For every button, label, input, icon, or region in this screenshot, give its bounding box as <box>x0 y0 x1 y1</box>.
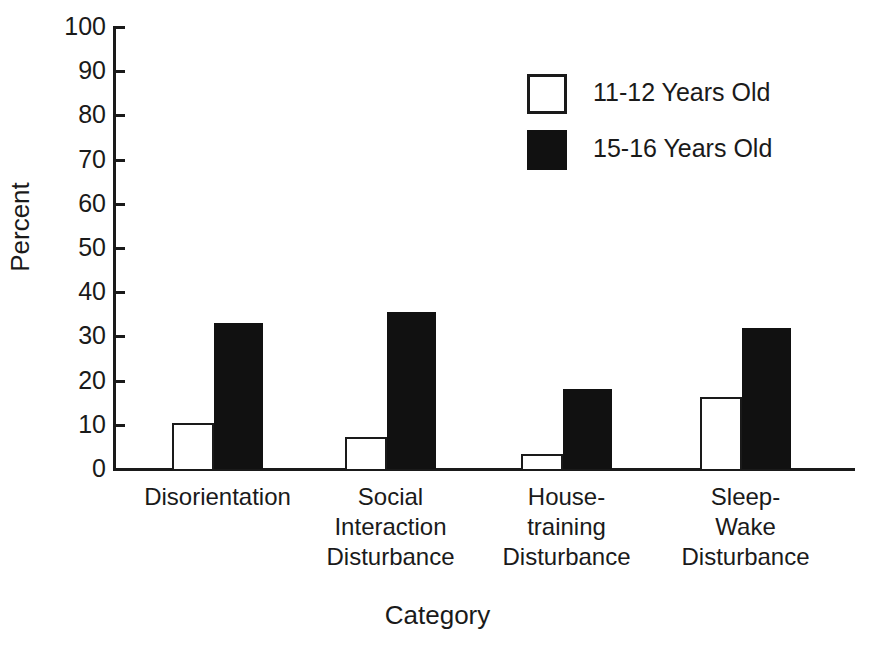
bar <box>214 323 263 469</box>
y-axis-tick-label: 30 <box>42 323 106 348</box>
bar <box>563 389 612 469</box>
y-axis-tick <box>113 70 125 73</box>
bar <box>345 437 387 469</box>
y-axis-tick-label: 20 <box>42 368 106 393</box>
bar <box>521 454 563 469</box>
bar <box>700 397 742 469</box>
y-axis-tick <box>113 335 125 338</box>
y-axis-tick-label-wrap: 20 <box>28 368 106 393</box>
y-axis-tick <box>113 380 125 383</box>
filled-square-swatch-icon <box>527 130 567 170</box>
y-axis-tick-label-wrap: 30 <box>28 323 106 348</box>
legend-entry: 15-16 Years Old <box>527 128 827 184</box>
y-axis-tick-label-wrap: 80 <box>28 102 106 127</box>
y-axis-tick-label: 0 <box>42 456 106 481</box>
x-axis-title: Category <box>0 600 875 630</box>
x-axis-category-label: Sleep- Wake Disturbance <box>636 482 856 572</box>
y-axis-tick-label-wrap: 0 <box>28 456 106 481</box>
y-axis-tick-label-wrap: 50 <box>28 235 106 260</box>
y-axis-tick-label-wrap: 40 <box>28 279 106 304</box>
y-axis-tick <box>113 291 125 294</box>
bar <box>742 328 791 469</box>
y-axis-title: Percent <box>5 147 35 307</box>
legend-entry: 11-12 Years Old <box>527 72 827 128</box>
y-axis-tick-label: 60 <box>42 191 106 216</box>
y-axis-tick-label: 40 <box>42 279 106 304</box>
y-axis-tick-label: 80 <box>42 102 106 127</box>
y-axis-tick <box>113 26 125 29</box>
y-axis-tick-label: 70 <box>42 147 106 172</box>
y-axis-tick-label: 100 <box>42 14 106 39</box>
y-axis-tick-label-wrap: 60 <box>28 191 106 216</box>
bar-chart: 1009080706050403020100 DisorientationSoc… <box>0 0 875 649</box>
y-axis-tick <box>113 159 125 162</box>
y-axis-tick-label: 50 <box>42 235 106 260</box>
y-axis-tick-label: 90 <box>42 58 106 83</box>
bar <box>172 423 214 469</box>
y-axis-tick-label: 10 <box>42 412 106 437</box>
legend: 11-12 Years Old 15-16 Years Old <box>527 72 827 184</box>
y-axis-tick <box>113 203 125 206</box>
y-axis-tick-label-wrap: 10 <box>28 412 106 437</box>
y-axis-tick-label-wrap: 100 <box>28 14 106 39</box>
legend-entry-label: 15-16 Years Old <box>593 133 772 163</box>
y-axis-tick <box>113 424 125 427</box>
open-square-swatch-icon <box>527 74 567 114</box>
y-axis-tick-label-wrap: 70 <box>28 147 106 172</box>
y-axis-tick <box>113 247 125 250</box>
bar <box>387 312 436 469</box>
y-axis-tick <box>113 114 125 117</box>
y-axis-tick-label-wrap: 90 <box>28 58 106 83</box>
legend-entry-label: 11-12 Years Old <box>593 77 770 107</box>
